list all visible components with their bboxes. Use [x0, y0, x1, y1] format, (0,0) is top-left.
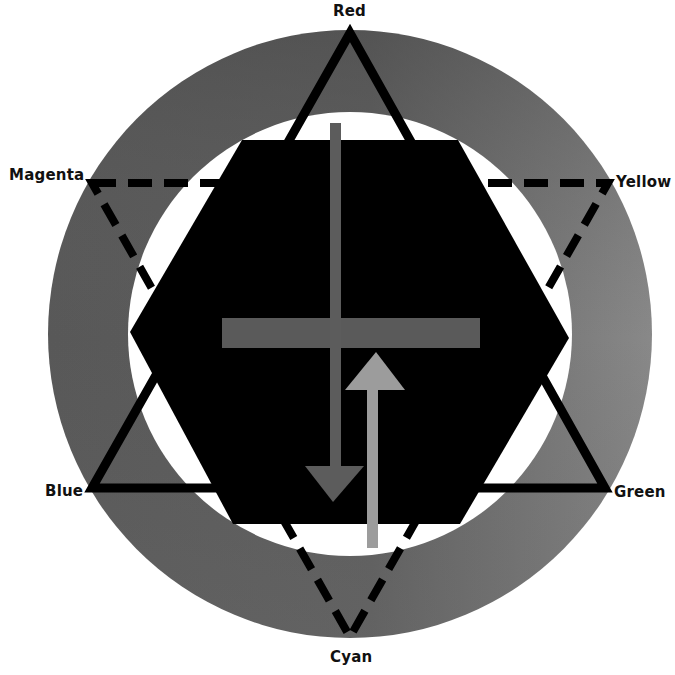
arrow-down-shaft — [330, 123, 341, 468]
color-wheel-svg — [0, 0, 675, 675]
label-green: Green — [614, 485, 666, 500]
label-magenta: Magenta — [9, 168, 84, 183]
horizontal-crossbar — [222, 318, 480, 348]
label-cyan: Cyan — [330, 650, 372, 665]
label-yellow: Yellow — [616, 175, 671, 190]
label-blue: Blue — [45, 484, 83, 499]
color-wheel-diagram: Red Yellow Green Cyan Blue Magenta — [0, 0, 675, 675]
label-red: Red — [333, 4, 366, 19]
arrow-up-shaft — [367, 388, 378, 548]
